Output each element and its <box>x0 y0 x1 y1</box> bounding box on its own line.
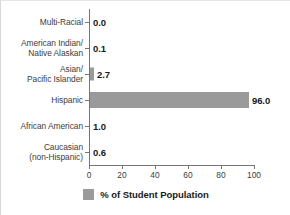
x-tick <box>221 165 222 169</box>
legend-label: % of Student Population <box>100 189 209 200</box>
x-tick-label-60: 60 <box>183 170 192 180</box>
bar-value-asian-pacific-islander: 2.7 <box>97 69 110 80</box>
category-label-hispanic: Hispanic <box>0 87 83 113</box>
bar-hispanic <box>90 92 249 108</box>
bar-row-caucasian: 0.6 <box>89 139 263 165</box>
bar-value-multi-racial: 0.0 <box>93 17 106 28</box>
category-label-line2: Native Alaskan <box>28 48 83 59</box>
category-tick <box>85 126 89 127</box>
category-label-line1: American Indian/ <box>21 38 83 49</box>
category-label-line1: Asian/ <box>60 64 83 75</box>
category-label-multi-racial: Multi-Racial <box>0 9 83 35</box>
category-tick <box>85 100 89 101</box>
bar-row-asian-pacific-islander: 2.7 <box>89 61 263 87</box>
category-tick <box>85 152 89 153</box>
bar-value-american-indian: 0.1 <box>93 43 106 54</box>
category-axis-labels: Multi-Racial American Indian/ Native Ala… <box>1 9 87 165</box>
x-tick-label-40: 40 <box>150 170 159 180</box>
bar-value-hispanic: 96.0 <box>252 95 270 106</box>
x-tick <box>188 165 189 169</box>
x-axis: 0 20 40 60 80 100 <box>89 165 263 183</box>
category-label-line2: (non-Hispanic) <box>29 152 83 163</box>
category-label-line1: Multi-Racial <box>40 17 83 28</box>
category-label-line1: Hispanic <box>51 95 83 106</box>
x-tick-label-0: 0 <box>87 170 92 180</box>
x-tick-label-80: 80 <box>216 170 225 180</box>
category-tick <box>85 22 89 23</box>
bar-row-hispanic: 96.0 <box>89 87 263 113</box>
category-label-african-american: African American <box>0 113 83 139</box>
category-label-line2: Pacific Islander <box>27 74 83 85</box>
bar-row-multi-racial: 0.0 <box>89 9 263 35</box>
category-label-caucasian: Caucasian (non-Hispanic) <box>0 139 83 165</box>
x-tick <box>254 165 255 169</box>
x-tick <box>122 165 123 169</box>
x-tick <box>155 165 156 169</box>
legend-swatch-icon <box>83 189 94 200</box>
x-tick-label-20: 20 <box>117 170 126 180</box>
category-label-line1: African American <box>20 121 83 132</box>
category-label-line1: Caucasian <box>44 142 83 153</box>
x-tick <box>89 165 90 169</box>
category-label-american-indian: American Indian/ Native Alaskan <box>0 35 83 61</box>
bar-row-american-indian: 0.1 <box>89 35 263 61</box>
category-label-asian-pacific-islander: Asian/ Pacific Islander <box>0 61 83 87</box>
bar-chart: Multi-Racial American Indian/ Native Ala… <box>0 0 290 215</box>
bar-value-african-american: 1.0 <box>93 121 106 132</box>
bar-value-caucasian: 0.6 <box>93 147 106 158</box>
bar-asian-pacific-islander <box>90 68 94 81</box>
category-tick <box>85 74 89 75</box>
plot-area: 0.0 0.1 2.7 96.0 1.0 0.6 <box>89 9 263 165</box>
category-tick <box>85 48 89 49</box>
chart-legend: % of Student Population <box>1 189 290 200</box>
bar-row-african-american: 1.0 <box>89 113 263 139</box>
x-tick-label-100: 100 <box>247 170 261 180</box>
